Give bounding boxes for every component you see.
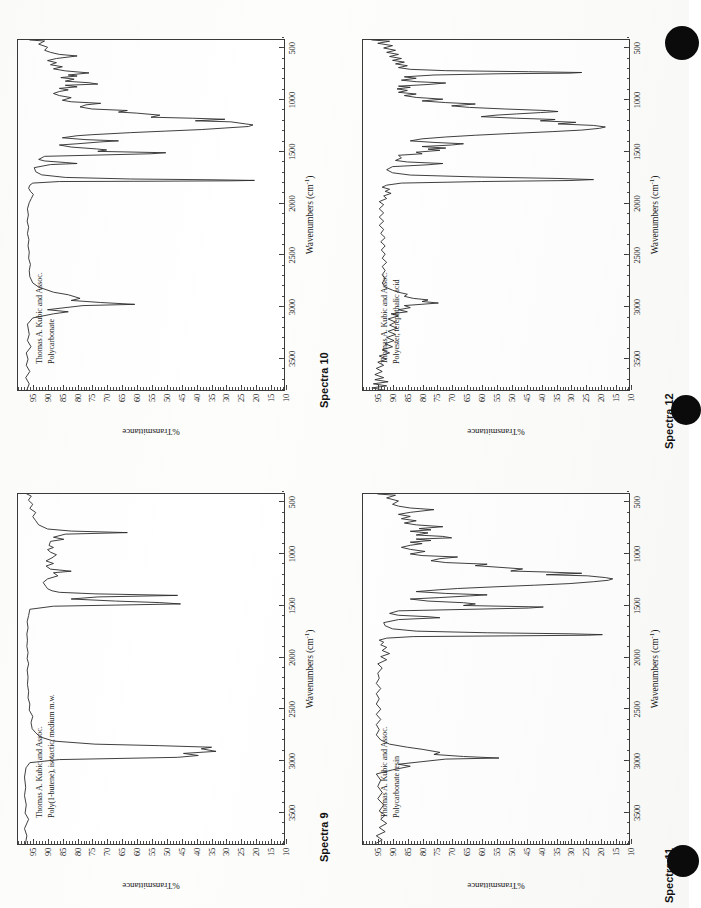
y-minor-tick (497, 842, 498, 845)
x-minor-tick (282, 68, 285, 69)
sample-line: Polycarbonate (46, 272, 58, 364)
y-minor-tick (125, 388, 126, 391)
y-minor-tick (51, 388, 52, 391)
y-minor-tick (434, 388, 435, 391)
y-tick-label: 60 (133, 394, 142, 402)
y-minor-tick (176, 388, 177, 391)
x-tick-label: 2000 (633, 196, 642, 212)
y-tick-label: 30 (222, 394, 231, 402)
x-minor-tick (282, 223, 285, 224)
y-tick-label: 90 (44, 848, 53, 856)
y-tick-label: 55 (148, 394, 157, 402)
y-minor-tick (434, 842, 435, 845)
x-minor-tick (282, 822, 285, 823)
x-minor-tick (627, 192, 630, 193)
y-minor-tick (426, 842, 427, 845)
y-minor-tick (363, 388, 364, 391)
y-tick-label: 45 (523, 394, 532, 402)
y-tick-label: 95 (29, 848, 38, 856)
x-minor-tick (627, 771, 630, 772)
y-minor-tick (479, 388, 480, 391)
x-minor-tick (282, 512, 285, 513)
y-minor-tick (164, 388, 165, 391)
x-minor-tick (282, 760, 285, 761)
x-minor-tick (627, 285, 630, 286)
y-tick-label: 55 (493, 848, 502, 856)
y-minor-tick (179, 842, 180, 845)
sample-line: Polycarbonate resin (391, 726, 403, 818)
y-minor-tick (69, 842, 70, 845)
y-minor-tick (467, 388, 468, 391)
y-minor-tick (601, 842, 602, 845)
x-minor-tick (627, 719, 630, 720)
y-minor-tick (479, 842, 480, 845)
y-minor-tick (452, 842, 453, 845)
y-minor-tick (158, 842, 159, 845)
y-tick-label: 10 (282, 394, 291, 402)
y-minor-tick (253, 388, 254, 391)
y-minor-tick (194, 388, 195, 391)
y-minor-tick (158, 388, 159, 391)
y-minor-tick (554, 842, 555, 845)
y-minor-tick (223, 388, 224, 391)
y-minor-tick (206, 842, 207, 845)
y-minor-tick (250, 388, 251, 391)
y-tick-label: 30 (222, 848, 231, 856)
y-minor-tick (149, 388, 150, 391)
y-minor-tick (494, 842, 495, 845)
y-minor-tick (563, 842, 564, 845)
y-minor-tick (235, 388, 236, 391)
x-minor-tick (282, 688, 285, 689)
y-minor-tick (45, 842, 46, 845)
y-minor-tick (369, 388, 370, 391)
y-minor-tick (390, 388, 391, 391)
y-tick-label: 45 (178, 848, 187, 856)
y-minor-tick (232, 388, 233, 391)
x-minor-tick (627, 368, 630, 369)
x-minor-tick (627, 182, 630, 183)
y-minor-tick (140, 388, 141, 391)
y-minor-tick (557, 388, 558, 391)
y-minor-tick (286, 388, 287, 391)
x-minor-tick (627, 389, 630, 390)
y-minor-tick (119, 842, 120, 845)
y-minor-tick (170, 842, 171, 845)
y-minor-tick (113, 842, 114, 845)
x-minor-tick (282, 151, 285, 152)
y-minor-tick (363, 842, 364, 845)
x-minor-tick (282, 626, 285, 627)
y-minor-tick (423, 842, 424, 845)
y-minor-tick (443, 842, 444, 845)
x-minor-tick (627, 265, 630, 266)
y-minor-tick (488, 842, 489, 845)
y-tick-label: 75 (433, 394, 442, 402)
y-minor-tick (396, 388, 397, 391)
y-minor-tick (610, 388, 611, 391)
y-minor-tick (54, 842, 55, 845)
y-minor-tick (176, 842, 177, 845)
y-tick-label: 25 (237, 848, 246, 856)
y-minor-tick (372, 388, 373, 391)
y-minor-tick (36, 388, 37, 391)
y-tick-label: 70 (448, 848, 457, 856)
y-minor-tick (113, 388, 114, 391)
y-minor-tick (18, 388, 19, 391)
y-minor-tick (155, 842, 156, 845)
y-minor-tick (607, 842, 608, 845)
plot-area-spectra-9: Thomas A. Kubic and Assoc. Poly(1-butene… (17, 493, 285, 845)
x-minor-tick (627, 543, 630, 544)
y-minor-tick (209, 388, 210, 391)
y-minor-tick (455, 388, 456, 391)
x-minor-tick (627, 688, 630, 689)
y-minor-tick (30, 388, 31, 391)
y-minor-tick (613, 388, 614, 391)
y-minor-tick (75, 388, 76, 391)
y-tick-label: 50 (163, 394, 172, 402)
x-minor-tick (627, 296, 630, 297)
y-minor-tick (42, 842, 43, 845)
y-minor-tick (509, 388, 510, 391)
y-tick-label: 85 (58, 394, 67, 402)
y-minor-tick (509, 842, 510, 845)
y-minor-tick (616, 842, 617, 845)
y-tick-label: 60 (478, 394, 487, 402)
